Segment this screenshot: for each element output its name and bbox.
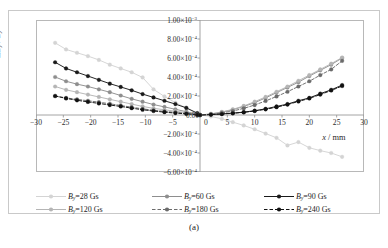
x-axis-tick-label: 15	[278, 118, 286, 127]
x-axis-tick-label: 10	[251, 118, 259, 127]
x-axis-title: x / mm	[322, 133, 345, 142]
legend-marker-icon	[34, 191, 68, 202]
y-axis-denominator: B	[0, 33, 2, 38]
y-axis-tick-label: −6.00×10−4	[163, 168, 197, 177]
x-axis-tick-label: −15	[112, 118, 124, 127]
y-axis-tick-label: 8.00×10−4	[167, 35, 197, 44]
y-axis-tick-label: 6.00×10−4	[167, 54, 197, 63]
legend-label: By=240 Gs	[296, 205, 331, 214]
x-axis-unit: / mm	[328, 133, 345, 142]
figure-caption: (a)	[0, 222, 388, 232]
legend-row: By=120 GsBy=180 GsBy=240 Gs	[34, 203, 354, 216]
legend-marker-icon	[150, 204, 184, 215]
legend-item[interactable]: By=180 Gs	[150, 203, 262, 216]
legend-label: By=28 Gs	[68, 192, 99, 201]
legend-marker-icon	[262, 204, 296, 215]
chart-canvas	[36, 20, 364, 172]
x-axis-tick-label: −5	[169, 118, 177, 127]
legend-label: By=90 Gs	[296, 192, 327, 201]
legend-marker-icon	[262, 191, 296, 202]
x-axis-tick-label: 20	[306, 118, 314, 127]
y-axis-tick-label: −4.00×10−4	[163, 149, 197, 158]
y-axis-tick-label: −2.00×10−4	[163, 130, 197, 139]
y-axis-subscript: y	[0, 45, 2, 48]
plot-area	[36, 20, 364, 172]
legend-item[interactable]: By=240 Gs	[262, 203, 354, 216]
x-axis-tick-label: 5	[225, 118, 229, 127]
x-axis-tick-label: −30	[30, 118, 42, 127]
legend-item[interactable]: By=60 Gs	[150, 190, 262, 203]
x-axis-tick-label: 30	[360, 118, 368, 127]
y-axis-denominator-subscript: y	[0, 31, 2, 34]
x-axis-tick-label: 25	[333, 118, 341, 127]
y-axis-tick-label: 2.00×10−4	[167, 92, 197, 101]
y-axis-title: ΔBy / By	[0, 31, 2, 59]
y-axis-zero-label: 0.00	[186, 111, 199, 120]
y-axis-tick-label: 4.00×10−4	[167, 73, 197, 82]
legend-label: By=120 Gs	[68, 205, 103, 214]
x-axis-tick-label: 0	[204, 118, 208, 127]
y-axis-symbol: B	[0, 47, 2, 52]
legend-marker-icon	[34, 204, 68, 215]
figure-panel: ΔBy / By 1.00×10−38.00×10−46.00×10−44.00…	[0, 0, 388, 248]
legend-label: By=180 Gs	[184, 205, 219, 214]
legend-label: By=60 Gs	[184, 192, 215, 201]
x-axis-tick-label: −25	[57, 118, 69, 127]
x-axis-tick-label: −20	[85, 118, 97, 127]
legend-item[interactable]: By=28 Gs	[34, 190, 150, 203]
legend-item[interactable]: By=90 Gs	[262, 190, 354, 203]
legend-item[interactable]: By=120 Gs	[34, 203, 150, 216]
y-axis-tick-label: 1.00×10−3	[167, 16, 197, 25]
legend-row: By=28 GsBy=60 GsBy=90 Gs	[34, 190, 354, 203]
chart-legend: By=28 GsBy=60 GsBy=90 Gs By=120 GsBy=180…	[34, 190, 354, 216]
y-axis-delta: Δ	[0, 53, 2, 58]
x-axis-tick-label: −10	[139, 118, 151, 127]
legend-marker-icon	[150, 191, 184, 202]
